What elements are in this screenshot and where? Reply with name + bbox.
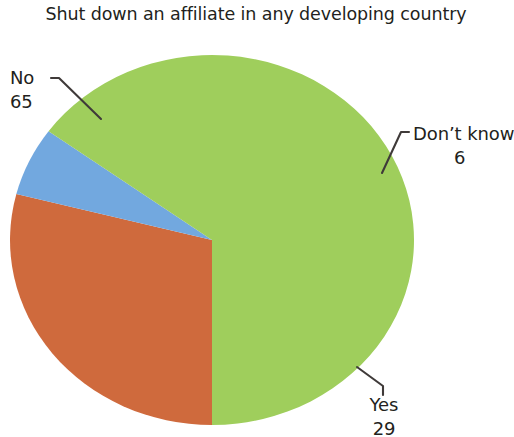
callout-no-category: No: [10, 66, 34, 90]
callout-dont-know-value: 6: [405, 146, 514, 170]
callout-yes: Yes 29: [358, 393, 410, 437]
leader-line-yes: [357, 367, 383, 395]
callout-dont-know-category: Don’t know: [413, 122, 514, 146]
callout-no-value: 65: [10, 90, 34, 114]
callout-yes-value: 29: [358, 417, 410, 437]
callout-dont-know: Don’t know 6: [413, 122, 514, 170]
callout-yes-category: Yes: [358, 393, 410, 417]
callout-no: No 65: [10, 66, 34, 114]
